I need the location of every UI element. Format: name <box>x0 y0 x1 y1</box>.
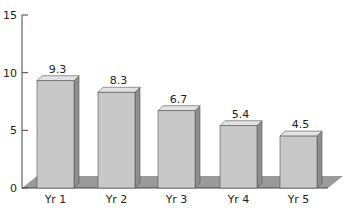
bar-front <box>280 136 317 188</box>
bar-top <box>220 121 262 126</box>
chart-canvas: 051015 9.38.36.75.44.5 Yr 1Yr 2Yr 3Yr 4Y… <box>0 0 356 210</box>
x-tick-label: Yr 3 <box>165 193 188 206</box>
bar-value-label: 8.3 <box>110 74 128 87</box>
bar-2: 8.3 <box>98 74 140 188</box>
bar-top <box>98 87 140 92</box>
bar-top <box>280 131 322 136</box>
bar-side <box>74 76 79 188</box>
x-axis-labels: Yr 1Yr 2Yr 3Yr 4Yr 5 <box>44 193 310 206</box>
bar-value-label: 4.5 <box>292 118 310 131</box>
x-tick-label: Yr 5 <box>287 193 310 206</box>
bar-side <box>135 87 140 188</box>
bar-value-label: 6.7 <box>170 93 188 106</box>
x-tick-label: Yr 1 <box>44 193 67 206</box>
bar-top <box>37 76 79 81</box>
bar-1: 9.3 <box>37 63 79 188</box>
y-tick-label: 5 <box>10 124 17 137</box>
bar-chart: 051015 9.38.36.75.44.5 Yr 1Yr 2Yr 3Yr 4Y… <box>0 0 356 210</box>
bar-value-label: 9.3 <box>49 63 67 76</box>
bar-front <box>98 92 135 188</box>
x-tick-label: Yr 2 <box>105 193 128 206</box>
x-tick-label: Yr 4 <box>227 193 250 206</box>
bar-side <box>257 121 262 188</box>
bar-front <box>220 126 257 188</box>
y-tick-label: 0 <box>10 182 17 195</box>
y-tick-label: 10 <box>3 67 17 80</box>
bar-side <box>195 106 200 188</box>
bar-3: 6.7 <box>158 93 200 188</box>
bar-front <box>37 81 74 188</box>
bar-4: 5.4 <box>220 108 262 188</box>
bar-side <box>317 131 322 188</box>
bar-series: 9.38.36.75.44.5 <box>37 63 322 188</box>
bar-value-label: 5.4 <box>232 108 250 121</box>
bar-5: 4.5 <box>280 118 322 188</box>
bar-top <box>158 106 200 111</box>
bar-front <box>158 111 195 188</box>
y-tick-label: 15 <box>3 9 17 22</box>
